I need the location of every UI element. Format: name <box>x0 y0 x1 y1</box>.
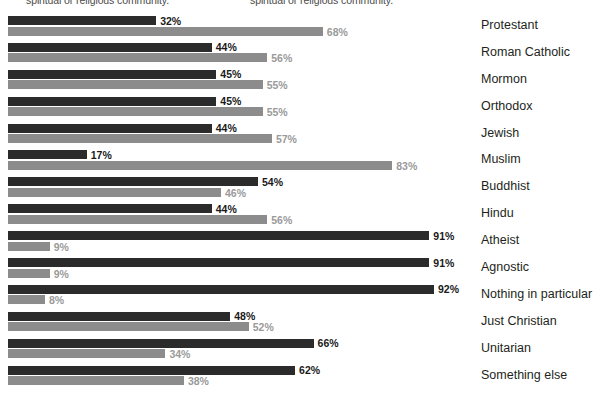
category-label: Atheist <box>481 233 519 247</box>
bar-light <box>8 215 267 224</box>
category-label: Mormon <box>481 72 527 86</box>
bar-zone: 92%8% <box>0 283 470 310</box>
category-label: Roman Catholic <box>481 45 570 59</box>
bar-dark-value: 92% <box>438 284 459 295</box>
chart-header-strip: spiritual or religious community. spirit… <box>0 0 597 13</box>
bar-light <box>8 295 45 304</box>
chart-row: 91%9%Atheist <box>0 229 597 256</box>
bar-dark-value: 17% <box>91 150 112 161</box>
bar-dark-value: 66% <box>318 338 339 349</box>
bar-dark-value: 44% <box>216 204 237 215</box>
bar-zone: 45%55% <box>0 68 470 95</box>
bar-light-value: 56% <box>271 215 292 226</box>
bar-dark <box>8 150 87 159</box>
bar-dark <box>8 124 212 133</box>
bar-zone: 54%46% <box>0 175 470 202</box>
category-label: Nothing in particular <box>481 287 592 301</box>
category-label: Muslim <box>481 152 521 166</box>
bar-dark <box>8 366 295 375</box>
bar-light-value: 8% <box>49 295 64 306</box>
chart-row: 17%83%Muslim <box>0 148 597 175</box>
bar-dark <box>8 231 429 240</box>
bar-zone: 17%83% <box>0 148 470 175</box>
bar-dark-value: 32% <box>160 16 181 27</box>
bar-light <box>8 242 50 251</box>
bar-light <box>8 161 392 170</box>
bar-zone: 44%57% <box>0 122 470 149</box>
bar-light <box>8 53 267 62</box>
chart-row: 91%9%Agnostic <box>0 256 597 283</box>
bar-zone: 91%9% <box>0 256 470 283</box>
bar-light <box>8 269 50 278</box>
chart-row: 54%46%Buddhist <box>0 175 597 202</box>
bar-dark <box>8 43 212 52</box>
bar-zone: 44%56% <box>0 202 470 229</box>
bar-dark <box>8 204 212 213</box>
chart-row: 45%55%Orthodox <box>0 95 597 122</box>
chart-row: 32%68%Protestant <box>0 14 597 41</box>
category-label: Agnostic <box>481 260 529 274</box>
bar-light-value: 9% <box>54 242 69 253</box>
category-label: Jewish <box>481 126 519 140</box>
bar-dark <box>8 312 230 321</box>
bar-light-value: 56% <box>271 53 292 64</box>
bar-dark <box>8 70 216 79</box>
bar-dark <box>8 97 216 106</box>
bar-zone: 91%9% <box>0 229 470 256</box>
bar-light-value: 55% <box>267 80 288 91</box>
category-label: Just Christian <box>481 314 557 328</box>
bar-dark-value: 91% <box>433 231 454 242</box>
chart-row: 62%38%Something else <box>0 364 597 391</box>
bar-light-value: 83% <box>396 161 417 172</box>
bar-light <box>8 134 272 143</box>
chart-row: 44%56%Roman Catholic <box>0 41 597 68</box>
bar-dark <box>8 258 429 267</box>
chart-row: 66%34%Unitarian <box>0 337 597 364</box>
bar-light <box>8 107 263 116</box>
bar-dark-value: 54% <box>262 177 283 188</box>
bar-dark <box>8 177 258 186</box>
bar-light-value: 55% <box>267 107 288 118</box>
bar-light <box>8 349 165 358</box>
chart-row: 92%8%Nothing in particular <box>0 283 597 310</box>
chart-row: 48%52%Just Christian <box>0 310 597 337</box>
bar-light <box>8 376 184 385</box>
bar-light <box>8 80 263 89</box>
bar-dark-value: 48% <box>234 311 255 322</box>
bar-zone: 32%68% <box>0 14 470 41</box>
bar-dark <box>8 285 434 294</box>
header-caption-right: spiritual or religious community. <box>250 0 393 6</box>
bar-zone: 62%38% <box>0 364 470 391</box>
bar-light-value: 38% <box>188 376 209 387</box>
bar-zone: 45%55% <box>0 95 470 122</box>
bar-light-value: 46% <box>225 188 246 199</box>
bar-light-value: 9% <box>54 269 69 280</box>
chart-rows: 32%68%Protestant44%56%Roman Catholic45%5… <box>0 14 597 390</box>
bar-dark-value: 45% <box>220 69 241 80</box>
chart-row: 45%55%Mormon <box>0 68 597 95</box>
bar-dark <box>8 339 314 348</box>
bar-zone: 48%52% <box>0 310 470 337</box>
bar-light-value: 57% <box>276 134 297 145</box>
header-caption-left: spiritual or religious community. <box>26 0 169 6</box>
category-label: Orthodox <box>481 99 532 113</box>
bar-dark-value: 45% <box>220 96 241 107</box>
category-label: Protestant <box>481 18 538 32</box>
chart-row: 44%56%Hindu <box>0 202 597 229</box>
category-label: Something else <box>481 368 567 382</box>
bar-dark-value: 44% <box>216 123 237 134</box>
bar-light <box>8 27 323 36</box>
bar-dark-value: 91% <box>433 258 454 269</box>
bar-light <box>8 322 249 331</box>
bar-light-value: 52% <box>253 322 274 333</box>
chart-row: 44%57%Jewish <box>0 122 597 149</box>
category-label: Buddhist <box>481 179 530 193</box>
bar-dark <box>8 16 156 25</box>
bar-light-value: 34% <box>169 349 190 360</box>
bar-light <box>8 188 221 197</box>
bar-light-value: 68% <box>327 27 348 38</box>
bar-dark-value: 44% <box>216 42 237 53</box>
bar-dark-value: 62% <box>299 365 320 376</box>
paired-bar-chart: spiritual or religious community. spirit… <box>0 0 597 418</box>
category-label: Hindu <box>481 206 514 220</box>
